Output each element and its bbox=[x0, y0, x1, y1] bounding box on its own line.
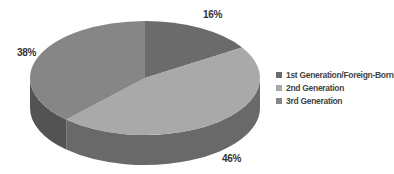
label-first-generation: 16% bbox=[203, 9, 222, 20]
legend-swatch bbox=[276, 98, 282, 104]
legend-swatch bbox=[276, 72, 282, 78]
label-second-generation: 46% bbox=[222, 153, 241, 164]
chart-legend: 1st Generation/Foreign-Born 2nd Generati… bbox=[276, 69, 394, 108]
legend-label: 1st Generation/Foreign-Born bbox=[286, 70, 394, 80]
legend-item-third-generation: 3rd Generation bbox=[276, 95, 394, 107]
legend-label: 2nd Generation bbox=[286, 83, 344, 93]
label-third-generation: 38% bbox=[17, 47, 36, 58]
legend-swatch bbox=[276, 85, 282, 91]
legend-label: 3rd Generation bbox=[286, 96, 342, 106]
legend-item-second-generation: 2nd Generation bbox=[276, 82, 394, 94]
legend-item-first-generation: 1st Generation/Foreign-Born bbox=[276, 69, 394, 81]
